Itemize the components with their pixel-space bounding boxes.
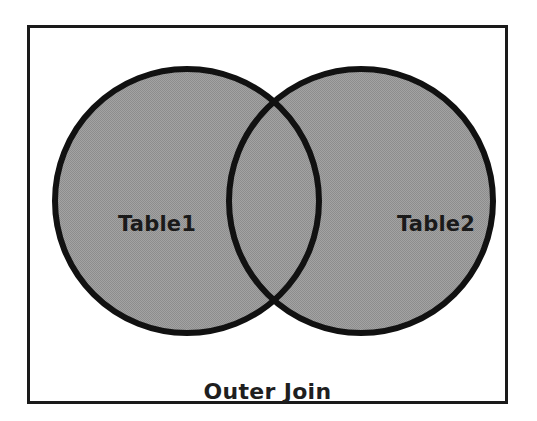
diagram-frame: Table1 Table2 Outer Join [27, 25, 508, 404]
venn-label-table2: Table2 [397, 214, 475, 235]
diagram-caption: Outer Join [30, 381, 505, 403]
venn-stage: Table1 Table2 Outer Join [30, 28, 505, 401]
venn-label-table1: Table1 [118, 214, 196, 235]
